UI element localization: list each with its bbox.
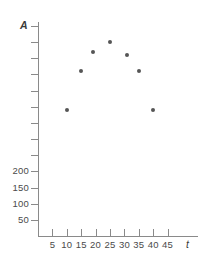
data-point	[65, 108, 69, 112]
data-point	[91, 50, 95, 54]
y-axis-tick-label: 150	[0, 183, 29, 193]
data-point	[151, 108, 155, 112]
x-axis-tick	[52, 229, 53, 236]
x-axis-tick	[124, 229, 125, 236]
x-axis-line	[38, 236, 198, 237]
y-axis-title: A	[20, 19, 28, 31]
x-axis-tick	[67, 229, 68, 236]
y-axis-tick	[31, 155, 38, 156]
x-axis-title: t	[186, 238, 189, 250]
x-axis-tick	[81, 229, 82, 236]
y-axis-tick-label: 50	[0, 215, 29, 225]
y-axis-tick	[31, 123, 38, 124]
y-axis-tick	[31, 26, 38, 27]
x-axis-tick	[139, 229, 140, 236]
y-axis-tick	[31, 220, 38, 221]
y-axis-tick	[31, 91, 38, 92]
y-axis-tick	[31, 58, 38, 59]
y-axis-tick	[31, 171, 38, 172]
y-axis-line	[38, 22, 39, 237]
x-axis-tick	[110, 229, 111, 236]
data-point	[125, 53, 129, 57]
scatter-plot: A t 50100150200 51015202530354045	[0, 0, 205, 262]
x-axis-tick	[168, 229, 169, 236]
data-point	[108, 40, 112, 44]
y-axis-tick	[31, 139, 38, 140]
data-point	[79, 69, 83, 73]
y-axis-tick	[31, 188, 38, 189]
x-axis-tick	[96, 229, 97, 236]
y-axis-tick	[31, 107, 38, 108]
y-axis-tick-label: 100	[0, 199, 29, 209]
y-axis-tick-label: 200	[0, 166, 29, 176]
y-axis-tick	[31, 42, 38, 43]
x-axis-tick-label: 45	[158, 239, 178, 250]
y-axis-tick	[31, 74, 38, 75]
y-axis-tick	[31, 204, 38, 205]
data-point	[137, 69, 141, 73]
x-axis-tick	[153, 229, 154, 236]
